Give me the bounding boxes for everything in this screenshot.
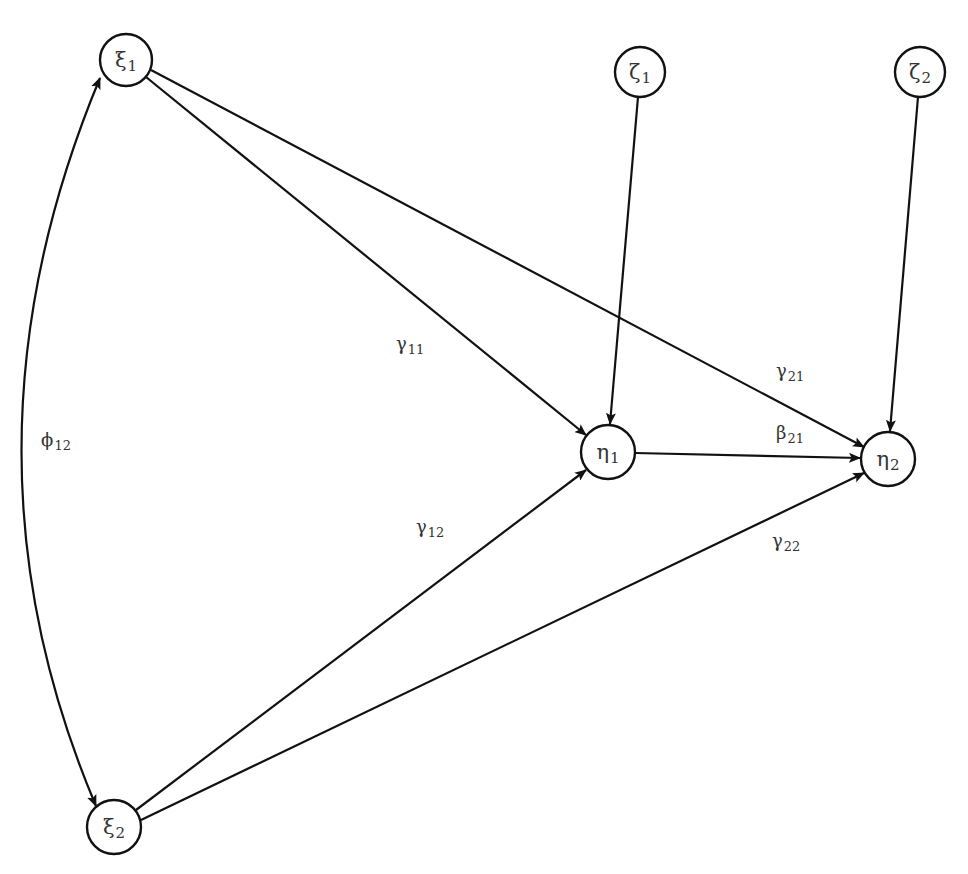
edge-zeta2-eta2 <box>890 97 918 431</box>
edge-gamma22 <box>141 473 864 820</box>
edge-label-phi12: ϕ12 <box>41 431 71 449</box>
symbol: η <box>876 447 889 471</box>
symbol: γ <box>396 333 407 354</box>
subscript: 21 <box>788 369 804 384</box>
edge-beta21 <box>635 453 860 458</box>
subscript: 1 <box>610 449 620 467</box>
symbol: ξ <box>103 815 115 839</box>
edge-label-gamma22: γ22 <box>772 532 800 550</box>
subscript: 2 <box>115 824 125 842</box>
symbol: ζ <box>909 60 920 84</box>
path-diagram <box>0 0 968 874</box>
subscript: 12 <box>428 525 444 540</box>
symbol: ϕ <box>41 429 53 450</box>
subscript: 11 <box>408 342 424 357</box>
symbol: γ <box>416 516 427 537</box>
node-label-xi2: ξ2 <box>103 817 125 838</box>
node-label-zeta2: ζ2 <box>909 62 931 83</box>
symbol: η <box>596 440 609 464</box>
node-label-eta2: η2 <box>876 449 899 470</box>
subscript: 2 <box>921 69 931 87</box>
symbol: γ <box>772 530 783 551</box>
subscript: 1 <box>127 57 137 75</box>
edge-gamma21 <box>151 70 864 447</box>
symbol: ξ <box>115 48 127 72</box>
node-label-xi1: ξ1 <box>115 50 137 71</box>
subscript: 2 <box>890 456 900 474</box>
subscript: 22 <box>784 539 800 554</box>
subscript: 12 <box>54 438 70 453</box>
edge-label-beta21: β21 <box>776 424 804 442</box>
symbol: ζ <box>629 60 640 84</box>
symbol: γ <box>776 360 787 381</box>
subscript: 1 <box>641 69 651 87</box>
node-label-eta1: η1 <box>596 442 619 463</box>
edge-label-gamma12: γ12 <box>416 518 444 536</box>
subscript: 21 <box>787 431 803 446</box>
edge-zeta1-eta1 <box>610 97 638 424</box>
node-label-zeta1: ζ1 <box>629 62 651 83</box>
edge-gamma11 <box>146 77 586 435</box>
edge-label-gamma21: γ21 <box>776 362 804 380</box>
symbol: β <box>776 422 786 443</box>
edge-label-gamma11: γ11 <box>396 335 424 353</box>
